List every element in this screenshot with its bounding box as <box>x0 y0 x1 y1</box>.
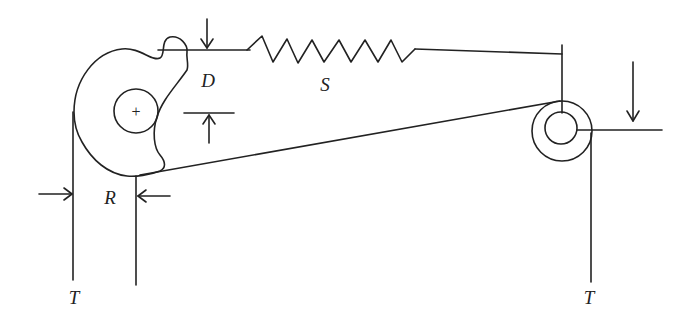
radius-left-arrow-icon <box>39 188 72 200</box>
spring-label: S <box>320 74 330 95</box>
pivot-marker: + <box>131 103 140 120</box>
radius-right-arrow-icon <box>138 190 170 202</box>
upper-link-right <box>415 49 562 54</box>
spring <box>247 36 415 63</box>
radius-label: R <box>103 187 116 208</box>
tension-label-left: T <box>69 287 81 308</box>
displacement-label: D <box>200 70 215 91</box>
displacement-bottom-arrow-icon <box>203 115 215 143</box>
lower-link <box>140 101 560 175</box>
pulley-inner <box>545 112 577 144</box>
right-down-arrow-icon <box>627 62 639 121</box>
cam-pulley-diagram: + T T <box>0 0 694 326</box>
displacement-top-arrow-icon <box>201 19 213 48</box>
tension-label-right: T <box>584 287 596 308</box>
